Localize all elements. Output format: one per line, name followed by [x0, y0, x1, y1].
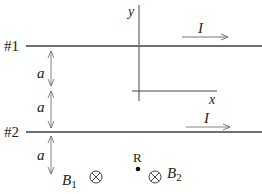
point-r-label: R — [133, 150, 142, 165]
point-r: R — [133, 150, 142, 171]
y-axis: y — [126, 4, 139, 101]
wire-1-current-label: I — [197, 20, 204, 36]
point-dot-icon — [136, 167, 141, 172]
spacing-arrow-3: a — [37, 136, 51, 174]
field-b1: B1 — [62, 171, 102, 190]
into-page-icon — [90, 171, 102, 183]
spacing-arrow-2: a — [37, 91, 51, 128]
spacing-label-2: a — [37, 99, 45, 115]
x-axis: x — [132, 91, 217, 107]
wire-1: #1 I — [4, 20, 262, 54]
wire-2-label: #2 — [4, 124, 19, 140]
two-wire-diagram: y x #1 I #2 I a a a R B1 — [0, 0, 262, 194]
field-b2-label: B2 — [167, 165, 182, 183]
wire-1-label: #1 — [4, 38, 19, 54]
into-page-icon — [149, 171, 161, 183]
spacing-label-3: a — [37, 147, 45, 163]
y-axis-label: y — [126, 4, 135, 19]
field-b1-label: B1 — [62, 172, 77, 190]
wire-2-current-label: I — [203, 110, 210, 126]
spacing-label-1: a — [37, 65, 45, 81]
field-b2: B2 — [149, 165, 182, 183]
spacing-arrow-1: a — [37, 51, 51, 86]
x-axis-label: x — [208, 92, 216, 107]
